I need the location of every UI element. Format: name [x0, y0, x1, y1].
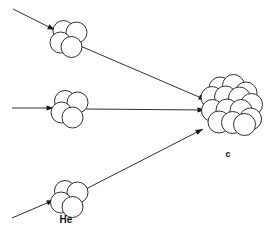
incoming-ray-bottom [12, 200, 54, 218]
helium-nucleus-middle [51, 91, 88, 129]
helium-nucleus-top-nucleon [61, 37, 82, 58]
helium-nucleus-bottom [51, 181, 89, 218]
carbon-nucleus [201, 75, 263, 136]
helium-nucleus-top [50, 21, 87, 58]
fusion-ray-bottom-arrowhead [195, 129, 203, 135]
fusion-ray-bottom-line [84, 129, 203, 190]
helium-label: He [60, 214, 73, 225]
nuclear-fusion-diagram: Hec [0, 0, 270, 234]
particles-layer [50, 21, 263, 218]
fusion-ray-middle [86, 107, 205, 112]
fusion-ray-top-line [78, 45, 206, 100]
helium-nucleus-middle-nucleon [62, 107, 83, 128]
fusion-ray-bottom [84, 129, 203, 190]
fusion-ray-middle-line [86, 109, 205, 110]
incoming-ray-middle [12, 105, 54, 110]
fusion-ray-top [78, 45, 206, 100]
diagram-canvas: Hec [0, 0, 270, 234]
incoming-ray-top [13, 9, 55, 30]
carbon-nucleus-nucleon [234, 114, 256, 136]
rays-layer [12, 9, 206, 218]
carbon-label: c [225, 149, 230, 159]
